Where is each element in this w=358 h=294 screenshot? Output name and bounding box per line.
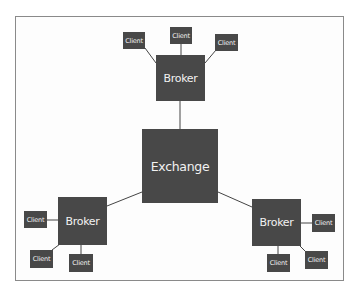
client-node: Client [267,254,290,272]
broker-node-top: Broker [156,55,205,101]
client-label: Client [308,256,326,264]
broker-label: Broker [163,72,197,85]
client-label: Client [172,32,190,40]
broker-node-right: Broker [252,199,301,246]
client-node: Client [305,251,328,269]
client-label: Client [218,39,236,47]
client-label: Client [33,255,51,263]
client-node: Client [123,32,145,49]
client-node: Client [69,254,93,272]
client-node: Client [24,211,47,228]
edge-broker-client [145,48,156,63]
client-node: Client [312,214,335,232]
broker-label: Broker [259,216,293,229]
client-label: Client [270,259,288,267]
edge-broker-client [205,50,216,63]
client-label: Client [72,259,90,267]
client-node: Client [170,27,192,44]
edge-exchange-broker-left [107,192,142,206]
exchange-label: Exchange [151,159,210,174]
client-node: Client [215,34,238,51]
broker-node-left: Broker [58,197,107,245]
client-node: Client [30,250,53,268]
client-label: Client [315,219,333,227]
edge-exchange-broker-right [218,192,252,207]
client-label: Client [125,37,143,45]
exchange-node: Exchange [142,129,218,203]
client-label: Client [27,216,45,224]
broker-label: Broker [65,215,99,228]
